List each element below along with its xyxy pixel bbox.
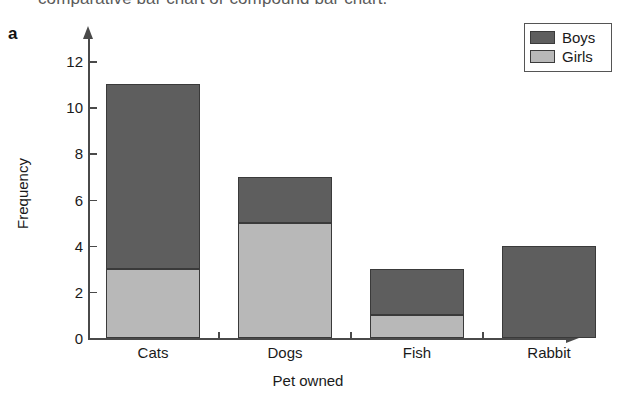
y-tick-label-2: 2 [43, 284, 83, 301]
y-tick-mark-12 [89, 61, 97, 63]
bar-group-cats[interactable] [106, 84, 200, 338]
y-tick-mark-2 [89, 292, 97, 294]
y-axis-title: Frequency [14, 134, 31, 254]
y-tick-label-10: 10 [43, 99, 83, 116]
x-category-label-fish: Fish [370, 344, 464, 361]
y-tick-label-0: 0 [43, 330, 83, 347]
y-tick-label-8: 8 [43, 145, 83, 162]
x-category-label-rabbit: Rabbit [502, 344, 596, 361]
bar-segment-fish-boys[interactable] [370, 269, 464, 315]
bar-segment-cats-boys[interactable] [106, 84, 200, 268]
bar-segment-cats-girls[interactable] [106, 269, 200, 338]
x-category-label-cats: Cats [106, 344, 200, 361]
bar-group-rabbit[interactable] [502, 246, 596, 338]
legend-swatch-girls-icon [530, 50, 555, 63]
legend-item-girls[interactable]: Girls [530, 47, 606, 66]
legend-swatch-boys-icon [530, 31, 555, 44]
legend-item-boys[interactable]: Boys [530, 28, 606, 47]
y-tick-mark-8 [89, 153, 97, 155]
x-axis-title: Pet owned [88, 372, 528, 389]
x-tick-mark-1 [218, 332, 220, 339]
y-tick-label-6: 6 [43, 192, 83, 209]
legend-label-girls: Girls [562, 49, 593, 64]
legend-label-boys: Boys [562, 30, 595, 45]
chart-legend: Boys Girls [524, 23, 612, 72]
x-tick-mark-3 [482, 332, 484, 339]
y-tick-mark-6 [89, 200, 97, 202]
bar-group-fish[interactable] [370, 269, 464, 338]
bar-group-dogs[interactable] [238, 177, 332, 338]
y-axis-line [88, 38, 90, 339]
y-tick-mark-4 [89, 246, 97, 248]
bar-segment-rabbit-boys[interactable] [502, 246, 596, 338]
x-category-label-dogs: Dogs [238, 344, 332, 361]
y-tick-label-4: 4 [43, 238, 83, 255]
y-axis-arrow-icon [83, 26, 93, 39]
x-axis-line [88, 338, 568, 340]
y-tick-mark-0 [89, 338, 97, 340]
bar-segment-fish-girls[interactable] [370, 315, 464, 338]
bar-segment-dogs-boys[interactable] [238, 177, 332, 223]
bar-segment-dogs-girls[interactable] [238, 223, 332, 338]
x-tick-mark-2 [350, 332, 352, 339]
y-tick-mark-10 [89, 107, 97, 109]
y-tick-label-12: 12 [43, 53, 83, 70]
